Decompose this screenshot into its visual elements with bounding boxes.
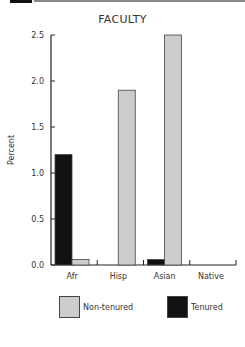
y-tick-label: 1.5 — [31, 123, 44, 132]
bar-tenured — [55, 155, 72, 265]
bar-chart: 0.00.51.01.52.02.5PercentAfrHispAsianNat… — [0, 0, 245, 290]
x-tick-label: Asian — [154, 272, 176, 281]
legend-item-non-tenured: Non-tenured — [59, 296, 133, 318]
legend-swatch-tenured — [167, 296, 188, 318]
bar-non-tenured — [72, 259, 89, 265]
bar-tenured — [148, 259, 165, 265]
legend-label: Non-tenured — [83, 303, 133, 312]
y-tick-label: 0.0 — [31, 261, 44, 270]
y-axis-label: Percent — [7, 135, 16, 165]
legend-item-tenured: Tenured — [167, 296, 223, 318]
y-tick-label: 0.5 — [31, 215, 44, 224]
legend: Non-tenured Tenured — [0, 296, 245, 326]
x-tick-label: Afr — [66, 272, 78, 281]
legend-label: Tenured — [191, 303, 223, 312]
y-tick-label: 1.0 — [31, 169, 44, 178]
x-tick-label: Native — [198, 272, 224, 281]
legend-swatch-non-tenured — [59, 296, 80, 318]
bar-non-tenured — [118, 90, 135, 265]
bar-non-tenured — [165, 35, 182, 265]
x-tick-label: Hisp — [110, 272, 127, 281]
y-tick-label: 2.0 — [31, 77, 44, 86]
y-tick-label: 2.5 — [31, 31, 44, 40]
